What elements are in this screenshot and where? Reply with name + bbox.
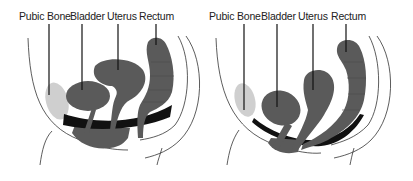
thigh-outline [227,130,239,165]
buttock-outline [157,148,162,165]
label-rectum: Rectum [139,10,174,22]
diagram-normal-pelvic-floor: Pubic Bone Bladder Uterus Rectum [0,0,206,181]
label-bladder: Bladder [261,10,296,22]
normal-anatomy-illustration [0,0,206,181]
bladder-shape [66,81,110,111]
buttock-outline [350,148,354,165]
prolapse-anatomy-illustration [206,0,413,181]
diagram-prolapse-pelvic-floor: Pubic Bone Bladder Uterus Rectum [206,0,413,181]
rectum-shape [137,38,173,138]
label-bladder: Bladder [70,10,105,22]
pubic-bone-shape [231,81,259,119]
bladder-shape [256,84,307,132]
thigh-outline [40,131,52,165]
label-pubic-bone: Pubic Bone [19,10,71,22]
label-uterus: Uterus [298,10,328,22]
label-pubic-bone: Pubic Bone [209,10,261,22]
label-uterus: Uterus [107,10,137,22]
label-rectum: Rectum [331,10,366,22]
